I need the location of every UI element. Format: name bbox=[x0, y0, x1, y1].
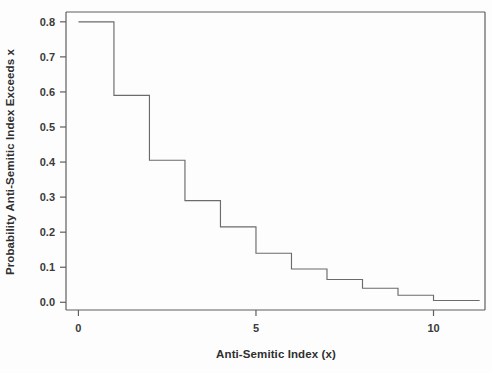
x-axis-ticks bbox=[78, 310, 433, 316]
y-axis-tick-labels: 0.00.10.20.30.40.50.60.70.8 bbox=[40, 16, 56, 308]
x-axis-title: Anti-Semitic Index (x) bbox=[216, 348, 336, 360]
x-tick-label: 5 bbox=[253, 322, 259, 334]
y-axis-title: Probability Anti-Semitic Index Exceeds x bbox=[4, 49, 16, 275]
y-tick-label: 0.1 bbox=[40, 261, 55, 273]
y-axis-ticks bbox=[60, 22, 66, 302]
chart-figure: 0510 0.00.10.20.30.40.50.60.70.8 Anti-Se… bbox=[0, 0, 492, 373]
x-tick-label: 10 bbox=[427, 322, 439, 334]
y-tick-label: 0.0 bbox=[40, 296, 55, 308]
y-tick-label: 0.8 bbox=[40, 16, 55, 28]
y-tick-label: 0.7 bbox=[40, 51, 55, 63]
y-tick-label: 0.4 bbox=[40, 156, 56, 168]
exceedance-step-chart: 0510 0.00.10.20.30.40.50.60.70.8 Anti-Se… bbox=[0, 0, 492, 373]
step-function-line bbox=[78, 22, 479, 301]
y-tick-label: 0.3 bbox=[40, 191, 55, 203]
y-tick-label: 0.6 bbox=[40, 86, 55, 98]
y-tick-label: 0.5 bbox=[40, 121, 55, 133]
x-axis-tick-labels: 0510 bbox=[75, 322, 439, 334]
x-tick-label: 0 bbox=[75, 322, 81, 334]
y-tick-label: 0.2 bbox=[40, 226, 55, 238]
plot-frame bbox=[66, 12, 485, 310]
